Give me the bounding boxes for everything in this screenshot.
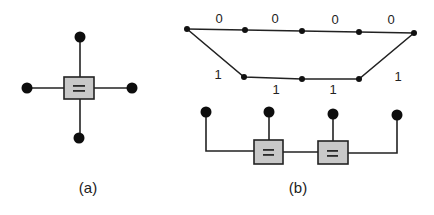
branch-label-bottom-3: 1 — [329, 82, 336, 97]
trellis-start-vertex — [184, 26, 190, 32]
equals-sign-icon-bar — [73, 90, 85, 92]
equals-sign-icon-bar — [263, 154, 274, 156]
variable-node-3 — [328, 109, 339, 120]
diagram-canvas: (a) 0 0 0 0 1 1 1 1 — [0, 0, 434, 215]
caption-b: (b) — [289, 179, 307, 196]
equality-node-1 — [254, 140, 283, 164]
branch-label-top-4: 0 — [387, 12, 394, 27]
equals-sign-icon — [263, 149, 274, 151]
branch-label-top-3: 0 — [331, 12, 338, 27]
figure-b-factor-graph: (b) — [201, 107, 403, 197]
branch-label-bottom-2: 1 — [272, 82, 279, 97]
figure-a: (a) — [22, 32, 138, 197]
trellis-vertex — [299, 76, 305, 82]
trellis-vertex — [299, 28, 305, 34]
equality-box — [254, 140, 283, 164]
branch-label-top-1: 0 — [215, 11, 222, 26]
variable-node-right — [127, 83, 138, 94]
trellis-vertex — [241, 74, 247, 80]
branch-label-bottom-4: 1 — [394, 69, 401, 84]
edge-box2-leaf4 — [348, 115, 397, 153]
trellis-end-vertex — [411, 30, 417, 36]
branch-label-bottom-1: 1 — [214, 67, 221, 82]
trellis-vertex — [356, 29, 362, 35]
variable-node-4 — [392, 110, 403, 121]
variable-node-bottom — [74, 133, 85, 144]
branch-label-top-2: 0 — [271, 11, 278, 26]
trellis-vertex — [356, 76, 362, 82]
equals-sign-icon — [73, 85, 85, 87]
edge-leaf1-box1 — [206, 112, 254, 151]
variable-node-top — [75, 32, 86, 43]
variable-node-2 — [264, 107, 275, 118]
variable-node-left — [22, 83, 33, 94]
equals-sign-icon-bar — [327, 155, 338, 157]
equality-box — [64, 77, 94, 99]
equality-node — [64, 77, 94, 99]
caption-a: (a) — [79, 179, 97, 196]
equals-sign-icon — [327, 150, 338, 152]
equality-box — [318, 141, 348, 164]
equality-node-2 — [318, 141, 348, 164]
figure-b-trellis: 0 0 0 0 1 1 1 1 — [184, 11, 417, 97]
trellis-vertex — [242, 27, 248, 33]
variable-node-1 — [201, 107, 212, 118]
